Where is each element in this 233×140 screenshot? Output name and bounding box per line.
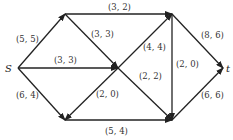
edge-label-e-t: (6, 6) bbox=[201, 90, 224, 100]
edge-label-b-e: (2, 0) bbox=[176, 59, 199, 69]
edge-label-b-t: (8, 6) bbox=[201, 30, 224, 40]
edge-label-a-c: (3, 3) bbox=[91, 29, 114, 39]
edge-label-c-d: (2, 0) bbox=[96, 89, 119, 99]
edge-label-d-e: (5, 4) bbox=[105, 126, 128, 136]
edge-label-c-b: (4, 4) bbox=[143, 42, 166, 52]
edge-c-b bbox=[118, 14, 172, 68]
flow-network-diagram: (5, 5) (3, 2) (3, 3) (3, 3) (6, 4) (4, 4… bbox=[0, 0, 233, 140]
edge-label-a-b: (3, 2) bbox=[108, 2, 131, 12]
edge-label-s-c: (3, 3) bbox=[54, 55, 77, 65]
node-label-source: S bbox=[5, 63, 12, 74]
edge-label-s-a: (5, 5) bbox=[16, 34, 39, 44]
edge-label-c-e: (2, 2) bbox=[139, 71, 162, 81]
node-label-sink: t bbox=[226, 63, 231, 74]
edge-label-s-d: (6, 4) bbox=[16, 90, 39, 100]
